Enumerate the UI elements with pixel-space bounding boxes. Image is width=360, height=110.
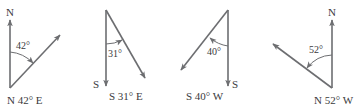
angle-arc-icon: [307, 55, 332, 68]
angle-label: 31°: [108, 48, 122, 59]
north-label: N: [328, 6, 336, 18]
bearings-diagram: N 42° N 42° E 31° S S 31° E 40° S S 40° …: [0, 0, 360, 110]
bearing-arrow-icon: [273, 44, 332, 88]
angle-label: 52°: [309, 44, 323, 55]
angle-arc-icon: [10, 52, 33, 63]
bearing-label: S 40° W: [186, 90, 224, 102]
angle-label: 40°: [207, 46, 221, 57]
south-label: S: [232, 78, 238, 90]
angle-arc-icon: [210, 38, 228, 46]
figure-n42e: N 42° N 42° E: [6, 6, 60, 106]
bearing-label: N 52° W: [314, 94, 354, 106]
bearing-label: N 42° E: [7, 94, 43, 106]
figure-s40w: 40° S S 40° W: [181, 10, 238, 102]
south-label: S: [93, 78, 99, 90]
north-label: N: [6, 6, 14, 18]
angle-label: 42°: [16, 40, 30, 51]
bearing-arrow-icon: [181, 10, 228, 70]
angle-arc-icon: [106, 40, 122, 44]
bearing-label: S 31° E: [109, 90, 143, 102]
figure-n52w: N 52° N 52° W: [273, 6, 354, 106]
figure-s31e: 31° S S 31° E: [93, 10, 145, 102]
bearings-svg: N 42° N 42° E 31° S S 31° E 40° S S 40° …: [0, 0, 360, 110]
